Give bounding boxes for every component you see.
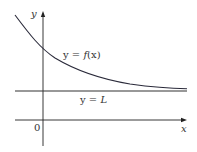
curve-label-arg: (x)	[87, 49, 101, 60]
x-axis-arrow-icon	[181, 118, 187, 122]
y-axis-label: y	[30, 8, 37, 19]
curve-label-eq: =	[69, 49, 84, 60]
graph-figure: y x 0 y = f(x) y = L	[0, 0, 197, 152]
origin-label: 0	[34, 122, 40, 133]
asymptote-label-rhs: L	[99, 94, 107, 105]
curve-label: y = f(x)	[62, 49, 101, 60]
asymptote-label: y = L	[79, 94, 107, 105]
y-axis-arrow-icon	[41, 11, 45, 17]
x-axis-label: x	[181, 123, 187, 134]
function-curve	[15, 15, 187, 89]
asymptote-label-eq: =	[86, 94, 101, 105]
